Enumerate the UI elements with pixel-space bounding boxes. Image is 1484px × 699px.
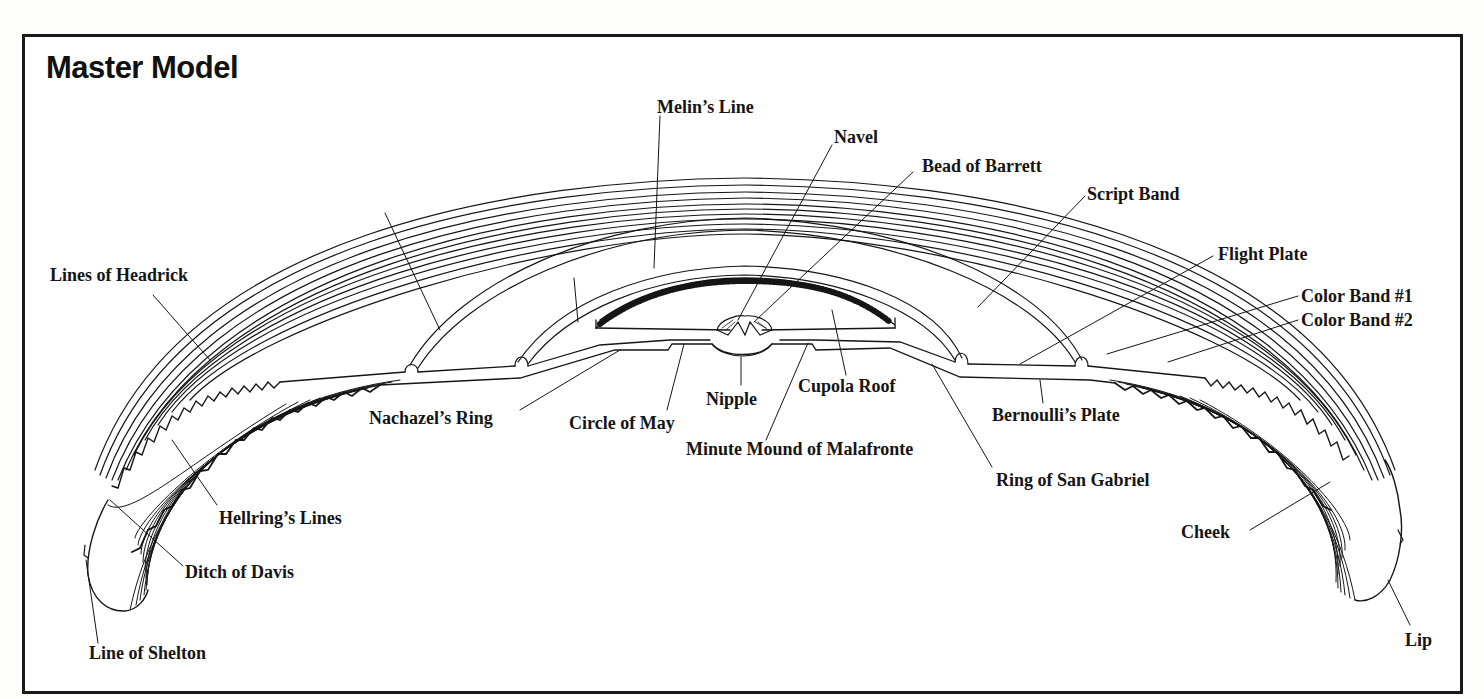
label-cheek: Cheek (1181, 523, 1230, 541)
label-bernoullis-plate: Bernoulli’s Plate (992, 406, 1120, 424)
label-ring-of-san-gabriel: Ring of San Gabriel (996, 471, 1150, 489)
cupola-roof (596, 280, 895, 328)
label-minute-mound-of-malafronte: Minute Mound of Malafronte (686, 440, 913, 458)
label-color-band-1: Color Band #1 (1301, 287, 1413, 305)
label-flight-plate: Flight Plate (1218, 245, 1307, 263)
label-nachazels-ring: Nachazel’s Ring (369, 409, 493, 427)
label-ditch-of-davis: Ditch of Davis (185, 563, 294, 581)
flight-plate-top (280, 340, 1205, 382)
right-sawtooth-lower (1115, 383, 1331, 510)
label-color-band-2: Color Band #2 (1301, 311, 1413, 329)
label-circle-of-may: Circle of May (569, 414, 675, 432)
label-cupola-roof: Cupola Roof (798, 377, 896, 395)
label-nipple: Nipple (706, 390, 757, 408)
label-lip: Lip (1405, 631, 1432, 649)
right-lower-rim-lines (1110, 380, 1355, 600)
label-script-band: Script Band (1087, 185, 1180, 203)
label-melins-line: Melin’s Line (657, 98, 754, 116)
label-bead-of-barrett: Bead of Barrett (922, 157, 1042, 175)
outer-rim-lines (95, 178, 1395, 480)
label-hellrings-lines: Hellring’s Lines (219, 509, 342, 527)
label-lines-of-headrick: Lines of Headrick (50, 266, 188, 284)
label-line-of-shelton: Line of Shelton (89, 644, 206, 662)
label-navel: Navel (834, 128, 878, 146)
